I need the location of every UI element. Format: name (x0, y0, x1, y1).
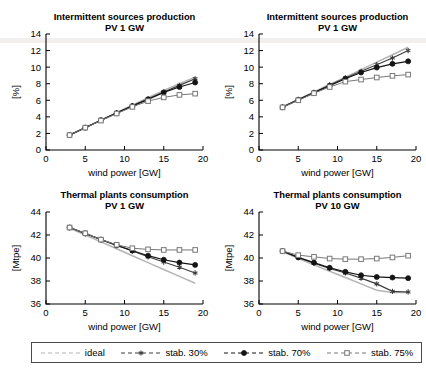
legend: idealstab. 30%stab. 70%stab. 75% (31, 342, 422, 363)
data-point (359, 77, 364, 82)
x-tick-label: 5 (296, 153, 301, 164)
y-axis-label: [Mtpe] (10, 245, 21, 271)
legend-label: stab. 70% (268, 347, 310, 358)
data-point (359, 257, 364, 262)
x-tick-label: 0 (256, 153, 261, 164)
data-point (67, 133, 72, 138)
data-point (374, 65, 379, 70)
x-axis-label: wind power [GW] (300, 321, 373, 332)
data-point (177, 248, 182, 253)
data-point (406, 59, 411, 64)
data-point (359, 273, 364, 278)
subplot-subtitle: PV 1 GW (318, 22, 357, 33)
x-tick-label: 10 (332, 153, 343, 164)
data-point (114, 111, 119, 116)
x-tick-label: 5 (296, 307, 301, 318)
y-tick-label: 14 (243, 28, 254, 39)
series-ideal (70, 228, 196, 283)
data-point (406, 72, 411, 77)
data-point (146, 99, 151, 104)
x-tick-label: 20 (411, 307, 422, 318)
subplot-subtitle: PV 1 GW (105, 200, 144, 211)
data-point (193, 91, 198, 96)
y-tick-label: 0 (36, 144, 41, 155)
data-point (146, 247, 151, 252)
data-point (390, 74, 395, 79)
legend-entry: stab. 75% (326, 347, 413, 359)
legend-open-square-icon (326, 347, 368, 359)
y-tick-label: 36 (243, 298, 254, 309)
data-point (343, 79, 348, 84)
data-point (242, 350, 247, 355)
x-tick-label: 20 (411, 153, 422, 164)
x-tick-label: 10 (332, 307, 343, 318)
legend-filled-circle-icon (223, 347, 265, 359)
y-tick-label: 2 (249, 128, 254, 139)
data-point (83, 125, 88, 130)
data-point (161, 248, 166, 253)
y-tick-label: 6 (36, 95, 41, 106)
data-point (193, 248, 198, 253)
data-point (312, 255, 317, 260)
subplot-bottom-right: Thermal plants consumptionPV 10 GW051015… (213, 186, 426, 346)
subplot-bottom-left: Thermal plants consumptionPV 1 GW0510152… (0, 186, 213, 346)
y-tick-label: 0 (249, 144, 254, 155)
data-point (130, 246, 135, 251)
subplot-subtitle: PV 10 GW (315, 200, 359, 211)
data-point (327, 85, 332, 90)
y-tick-label: 4 (36, 111, 41, 122)
data-point (83, 231, 88, 236)
x-tick-label: 0 (43, 307, 48, 318)
subplot-top-right: Intermittent sources productionPV 1 GW05… (213, 8, 426, 192)
data-point (161, 257, 166, 262)
x-tick-label: 15 (371, 307, 382, 318)
data-point (327, 256, 332, 261)
data-point (114, 242, 119, 247)
subplot-subtitle: PV 1 GW (105, 22, 144, 33)
data-point (146, 253, 151, 258)
subplot-bottom-right-svg: Thermal plants consumptionPV 10 GW051015… (213, 186, 426, 342)
data-point (193, 80, 198, 85)
y-axis-label: [Mtpe] (223, 245, 234, 271)
series-line (70, 94, 196, 135)
y-tick-label: 38 (30, 275, 41, 286)
y-axis-label: [%] (10, 85, 21, 99)
y-tick-label: 42 (30, 229, 41, 240)
y-tick-label: 10 (243, 62, 254, 73)
y-axis-label: [%] (223, 85, 234, 99)
y-tick-label: 6 (249, 95, 254, 106)
y-tick-label: 4 (249, 111, 254, 122)
y-tick-label: 12 (243, 45, 254, 56)
data-point (390, 275, 395, 280)
data-point (343, 257, 348, 262)
x-tick-label: 10 (119, 307, 130, 318)
data-point (67, 225, 72, 230)
data-point (296, 98, 301, 103)
x-axis-label: wind power [GW] (300, 167, 373, 178)
series-stab-75 (67, 91, 197, 137)
series-stab-75 (67, 225, 197, 252)
legend-line-icon (40, 347, 82, 359)
axes (259, 34, 416, 150)
legend-entry: ideal (40, 347, 105, 359)
data-point (406, 276, 411, 281)
data-point (390, 61, 395, 66)
subplot-top-left-svg: Intermittent sources productionPV 1 GW05… (0, 8, 213, 188)
y-tick-label: 38 (243, 275, 254, 286)
y-tick-label: 12 (30, 45, 41, 56)
subplot-title: Intermittent sources production (54, 11, 196, 22)
x-axis-label: wind power [GW] (87, 321, 160, 332)
data-point (374, 274, 379, 279)
legend-entry: stab. 30% (120, 347, 207, 359)
y-tick-label: 44 (243, 206, 254, 217)
x-tick-label: 20 (198, 153, 209, 164)
subplot-bottom-left-svg: Thermal plants consumptionPV 1 GW0510152… (0, 186, 213, 342)
legend-entry: stab. 70% (223, 347, 310, 359)
data-point (177, 85, 182, 90)
legend-star-icon (120, 347, 162, 359)
data-point (359, 70, 364, 75)
legend-label: ideal (85, 347, 105, 358)
subplot-title: Thermal plants consumption (273, 189, 401, 200)
x-tick-label: 10 (119, 153, 130, 164)
data-point (161, 95, 166, 100)
